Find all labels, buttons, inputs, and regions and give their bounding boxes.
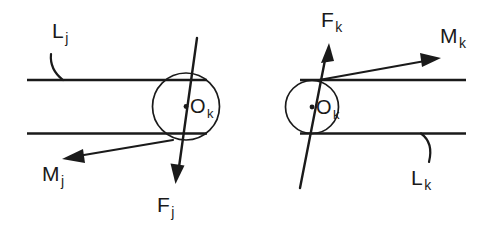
moment-mk-arrowhead — [420, 53, 441, 67]
label-moment-mj: Mj — [42, 163, 63, 184]
link-k-leader-curve — [421, 134, 430, 163]
right-diagram-group — [286, 43, 467, 188]
label-moment-mk: Mk — [440, 25, 465, 46]
label-link-k: Lk — [411, 167, 430, 188]
joint-ok-center-dot-right — [310, 105, 315, 110]
force-fj-arrowhead — [171, 164, 185, 185]
moment-mj-shaft — [78, 140, 173, 156]
moment-mk-shaft — [319, 61, 425, 80]
label-link-j: Lj — [52, 20, 67, 41]
label-joint-ok-right: Ok — [316, 97, 339, 117]
label-joint-ok-left: Ok — [190, 96, 213, 116]
force-fk-arrowhead — [321, 43, 334, 63]
figure-root: Lj Ok Mj Fj Fk Mk Ok Lk — [0, 0, 491, 239]
label-force-fj: Fj — [157, 194, 173, 215]
figure-canvas — [0, 0, 491, 239]
label-force-fk: Fk — [321, 9, 341, 30]
moment-mj-arrowhead — [62, 149, 85, 163]
link-j-leader-curve — [51, 54, 63, 80]
